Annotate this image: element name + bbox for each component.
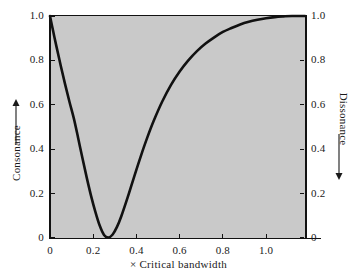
x-tick-label: 1.0	[246, 245, 286, 256]
y-tick-label-left: 0	[4, 232, 44, 243]
y-tick-label-left: 1.0	[4, 10, 44, 21]
x-tick-label: 0.8	[203, 245, 243, 256]
x-tick-label: 0.6	[160, 245, 200, 256]
y-tick-right	[300, 193, 304, 194]
y-tick-left	[51, 60, 55, 61]
x-tick-label: 0.2	[73, 245, 113, 256]
axis-spine-right	[305, 15, 307, 239]
consonance-curve	[50, 16, 305, 238]
y-tick-left	[51, 193, 55, 194]
y-tick-left	[51, 149, 55, 150]
y-tick-right	[300, 60, 304, 61]
y-tick-label-right: 1.0	[311, 10, 351, 21]
y-tick-left	[51, 15, 55, 16]
x-tick	[93, 234, 94, 238]
y-tick-left	[51, 237, 55, 238]
y-tick-left	[51, 104, 55, 105]
x-tick	[266, 234, 267, 238]
x-tick	[136, 234, 137, 238]
x-tick	[179, 234, 180, 238]
consonance-dissonance-chart: 00.20.40.60.81.000.20.40.60.81.000.20.40…	[0, 0, 357, 278]
y-tick-right	[300, 237, 304, 238]
axis-spine-top	[49, 15, 307, 16]
curve-layer	[50, 16, 305, 238]
axis-spine-left	[49, 15, 51, 239]
x-tick-label: 0	[30, 245, 70, 256]
x-tick	[222, 234, 223, 238]
y-tick-right	[300, 15, 304, 16]
axis-spine-bottom	[49, 238, 321, 239]
y-tick-label-left: 0.8	[4, 54, 44, 65]
y-tick-right	[300, 104, 304, 105]
x-tick	[49, 234, 50, 238]
y-tick-right	[300, 149, 304, 150]
down-arrow-icon	[334, 132, 344, 182]
x-tick-label: 0.4	[116, 245, 156, 256]
up-arrow-icon	[11, 97, 21, 147]
x-axis-title: × Critical bandwidth	[0, 258, 357, 270]
y-tick-label-right: 0.2	[311, 188, 351, 199]
y-tick-label-right: 0	[311, 232, 351, 243]
